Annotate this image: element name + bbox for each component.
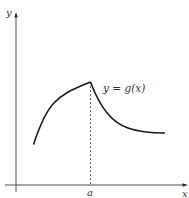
- y-axis-label: y: [5, 7, 12, 18]
- curve-g-left: [34, 82, 91, 145]
- x-axis-label: x: [182, 188, 188, 198]
- point-a-label: a: [87, 187, 93, 198]
- y-axis-arrow-icon: [14, 12, 17, 18]
- x-axis-arrow-icon: [183, 183, 189, 186]
- function-label: y = g(x): [102, 82, 145, 94]
- graph-figure: y x a y = g(x): [0, 0, 189, 198]
